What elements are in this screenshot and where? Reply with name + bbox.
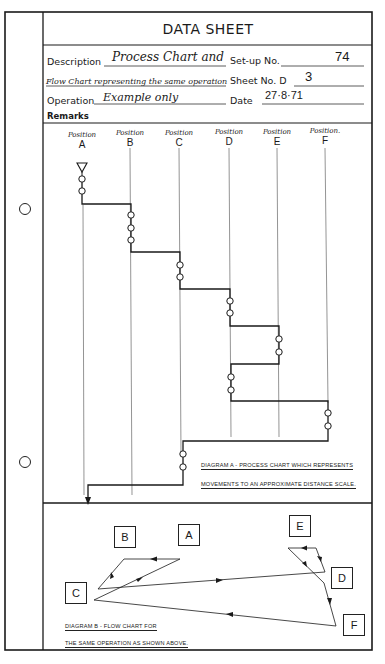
setup-value: 74 xyxy=(335,49,349,64)
binder-hole-top xyxy=(19,203,31,215)
description-value-line2: Flow Chart representing the same operati… xyxy=(46,77,227,86)
operation-label: Operation xyxy=(47,95,94,106)
flow-node-e: E xyxy=(289,515,311,537)
position-a-header: PositionA xyxy=(62,131,102,149)
date-label: Date xyxy=(230,95,253,106)
position-c-letter: C xyxy=(159,138,199,147)
position-c-header: PositionC xyxy=(159,129,199,147)
page-title: DATA SHEET xyxy=(44,14,372,44)
process-path xyxy=(82,176,328,500)
end-arrow-icon xyxy=(85,497,91,505)
operation-circles xyxy=(79,176,331,470)
flow-lines xyxy=(94,548,336,626)
setup-label: Set-up No. xyxy=(230,55,280,66)
diagram-a-caption-line2: movements to an approximate distance sca… xyxy=(201,481,356,489)
storage-triangle-icon xyxy=(77,163,87,172)
position-d-header: PositionD xyxy=(209,128,249,146)
sheet-value: 3 xyxy=(305,69,312,84)
flow-node-d: D xyxy=(331,567,353,589)
flow-node-c: C xyxy=(65,582,87,604)
binder-hole-bottom xyxy=(19,456,31,468)
diagram-a-caption-line1: Diagram A - Process chart which represen… xyxy=(201,462,353,470)
position-e-letter: E xyxy=(257,137,297,146)
date-value: 27·8·71 xyxy=(265,89,303,101)
position-a-letter: A xyxy=(62,140,102,149)
description-value-line1: Process Chart and xyxy=(112,50,224,64)
position-d-letter: D xyxy=(209,137,249,146)
remarks-label: Remarks xyxy=(47,111,89,121)
diagram-b-caption-line2: the same operation as shown above. xyxy=(65,640,188,648)
position-b-header: PositionB xyxy=(110,129,150,147)
position-f-letter: F xyxy=(305,136,345,145)
position-e-header: PositionE xyxy=(257,128,297,146)
flow-node-f: F xyxy=(343,614,365,636)
operation-value: Example only xyxy=(103,91,178,104)
flow-arrow-icons xyxy=(110,546,332,618)
flow-node-a: A xyxy=(178,524,200,546)
position-f-header: Position.F xyxy=(305,127,345,145)
position-b-letter: B xyxy=(110,138,150,147)
diagram-b-caption-line1: Diagram B - Flow chart for xyxy=(65,623,157,631)
sheet-label: Sheet No. D xyxy=(230,75,287,86)
flow-node-b: B xyxy=(114,526,136,548)
description-label: Description xyxy=(47,56,101,67)
position-guides xyxy=(83,148,328,495)
